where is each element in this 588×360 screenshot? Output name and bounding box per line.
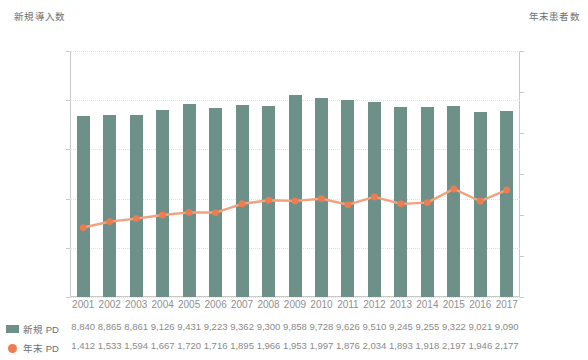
- table-cell-new-pd: 9,322: [441, 322, 467, 332]
- line-marker: [345, 201, 352, 208]
- chart-plot-area: 01,0002,0003,0004,0005,00002,0004,0006,0…: [70, 51, 520, 297]
- table-cell-new-pd: 8,840: [70, 322, 96, 332]
- x-axis-tick-labels: 2001200220032004200520062007200820092010…: [70, 300, 520, 316]
- table-cell-year-end-pd: 1,893: [388, 341, 414, 351]
- line-marker: [371, 194, 378, 201]
- table-cell-year-end-pd: 1,876: [335, 341, 361, 351]
- table-row: 新規 PD 8,8408,8658,8619,1269,4319,2239,36…: [0, 320, 588, 339]
- x-axis-tick-label: 2008: [255, 300, 281, 310]
- axis-tick: [520, 92, 524, 93]
- data-table: 新規 PD 8,8408,8658,8619,1269,4319,2239,36…: [0, 320, 588, 358]
- table-cell-new-pd: 9,626: [335, 322, 361, 332]
- line-marker: [503, 186, 510, 193]
- table-cell-year-end-pd: 2,177: [494, 341, 520, 351]
- table-cell-new-pd: 9,245: [388, 322, 414, 332]
- x-axis-tick-label: 2009: [282, 300, 308, 310]
- line-marker: [318, 195, 325, 202]
- table-cell-new-pd: 9,728: [308, 322, 334, 332]
- table-cell-year-end-pd: 1,667: [149, 341, 175, 351]
- axis-tick: [66, 297, 70, 298]
- table-cell-year-end-pd: 1,966: [255, 341, 281, 351]
- table-cell-new-pd: 9,223: [202, 322, 228, 332]
- x-axis-tick-label: 2007: [229, 300, 255, 310]
- line-marker: [292, 198, 299, 205]
- x-axis-tick-label: 2006: [202, 300, 228, 310]
- table-cell-year-end-pd: 1,953: [282, 341, 308, 351]
- line-marker: [106, 218, 113, 225]
- x-axis-tick-label: 2002: [96, 300, 122, 310]
- table-cell-year-end-pd: 1,918: [414, 341, 440, 351]
- x-axis-tick-label: 2010: [308, 300, 334, 310]
- right-axis-title: 年末患者数: [529, 9, 581, 23]
- table-cell-new-pd: 9,362: [229, 322, 255, 332]
- line-series-year-end-pd: [70, 51, 520, 297]
- axis-tick: [520, 51, 524, 52]
- legend-item-year-end-pd: 年末 PD: [6, 341, 59, 355]
- left-axis-title: 新規導入数: [14, 9, 66, 23]
- table-cell-new-pd: 9,021: [467, 322, 493, 332]
- table-cell-new-pd: 9,431: [176, 322, 202, 332]
- table-cell-year-end-pd: 1,594: [123, 341, 149, 351]
- line-marker: [477, 198, 484, 205]
- table-cell-year-end-pd: 1,533: [96, 341, 122, 351]
- x-axis-tick-label: 2012: [361, 300, 387, 310]
- x-axis-tick-label: 2004: [149, 300, 175, 310]
- table-cell-year-end-pd: 2,034: [361, 341, 387, 351]
- x-axis-tick-label: 2015: [441, 300, 467, 310]
- table-cell-new-pd: 9,090: [494, 322, 520, 332]
- line-marker: [239, 200, 246, 207]
- table-cell-year-end-pd: 1,720: [176, 341, 202, 351]
- line-marker: [133, 215, 140, 222]
- line-marker: [450, 186, 457, 193]
- line-marker: [159, 212, 166, 219]
- line-marker: [186, 209, 193, 216]
- table-cell-new-pd: 8,865: [96, 322, 122, 332]
- circle-icon: [8, 344, 17, 353]
- legend-label-new-pd: 新規 PD: [23, 322, 59, 336]
- x-axis-tick-label: 2003: [123, 300, 149, 310]
- x-axis-tick-label: 2005: [176, 300, 202, 310]
- table-cell-year-end-pd: 2,197: [441, 341, 467, 351]
- line-marker: [397, 200, 404, 207]
- table-cell-new-pd: 9,255: [414, 322, 440, 332]
- table-cell-new-pd: 8,861: [123, 322, 149, 332]
- line-marker: [265, 197, 272, 204]
- square-icon: [6, 325, 19, 333]
- table-cell-new-pd: 9,126: [149, 322, 175, 332]
- line-marker: [424, 199, 431, 206]
- x-axis-tick-label: 2017: [494, 300, 520, 310]
- table-cell-year-end-pd: 1,412: [70, 341, 96, 351]
- table-cell-year-end-pd: 1,997: [308, 341, 334, 351]
- x-axis-tick-label: 2001: [70, 300, 96, 310]
- table-cell-year-end-pd: 1,895: [229, 341, 255, 351]
- line-marker: [212, 209, 219, 216]
- table-cell-year-end-pd: 1,716: [202, 341, 228, 351]
- x-axis-tick-label: 2016: [467, 300, 493, 310]
- axis-tick: [520, 133, 524, 134]
- x-axis-tick-label: 2011: [335, 300, 361, 310]
- axis-tick: [520, 174, 524, 175]
- table-cell-new-pd: 9,858: [282, 322, 308, 332]
- legend-item-new-pd: 新規 PD: [6, 322, 59, 336]
- axis-tick: [520, 297, 524, 298]
- table-row: 年末 PD 1,4121,5331,5941,6671,7201,7161,89…: [0, 339, 588, 358]
- x-axis-tick-label: 2014: [414, 300, 440, 310]
- table-cell-new-pd: 9,300: [255, 322, 281, 332]
- axis-tick: [520, 215, 524, 216]
- table-cell-year-end-pd: 1,946: [467, 341, 493, 351]
- table-cell-new-pd: 9,510: [361, 322, 387, 332]
- x-axis-tick-label: 2013: [388, 300, 414, 310]
- line-marker: [80, 224, 87, 231]
- legend-label-year-end-pd: 年末 PD: [23, 341, 59, 355]
- axis-tick: [520, 256, 524, 257]
